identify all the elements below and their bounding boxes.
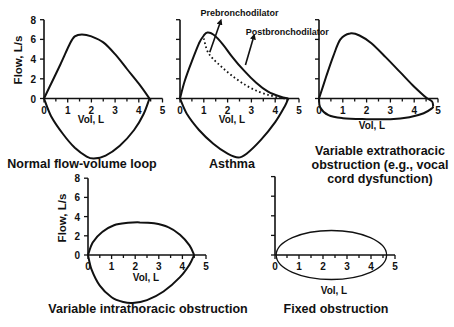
x-axis-label: Vol, L (219, 114, 245, 125)
x-tick-label: 4 (411, 105, 417, 116)
y-tick-label: 6 (30, 34, 36, 45)
y-tick-label: 8 (74, 173, 80, 184)
annotation-label: Prebronchodilator (200, 8, 279, 18)
y-tick-label: 0 (74, 250, 80, 261)
panel-fixed: 012345Vol, L (271, 177, 398, 296)
y-tick-label: 6 (74, 192, 80, 203)
x-tick-label: 5 (435, 105, 441, 116)
x-tick-label: 1 (109, 261, 115, 272)
panel-normal: 01234502468Vol, L (30, 15, 165, 159)
x-tick-label: 2 (364, 105, 370, 116)
x-axis-label: Vol, L (321, 285, 347, 296)
caption-intrathoracic: Variable intrathoracic obstruction (48, 302, 247, 316)
x-tick-label: 1 (201, 105, 207, 116)
series-expiratory (88, 222, 194, 255)
x-axis-label: Vol, L (78, 114, 104, 125)
x-tick-label: 3 (388, 105, 394, 116)
x-tick-label: 5 (296, 105, 302, 116)
y-tick-label: 0 (30, 94, 36, 105)
x-tick-label: 3 (112, 105, 118, 116)
x-tick-label: 1 (340, 105, 346, 116)
x-tick-label: 0 (272, 261, 278, 272)
x-tick-label: 4 (272, 105, 278, 116)
flow-volume-figure: Flow, L/s Flow, L/s 01234502468Vol, L 01… (0, 0, 454, 327)
caption-normal: Normal flow-volume loop (7, 157, 157, 171)
x-tick-label: 5 (392, 261, 398, 272)
caption-extrathoracic-line1: Variable extrathoracic (315, 144, 445, 158)
annotation-arrow (245, 36, 253, 65)
x-tick-label: 4 (136, 105, 142, 116)
caption-asthma: Asthma (209, 157, 256, 171)
x-tick-label: 5 (203, 261, 209, 272)
annotation-label: Postbronchodilator (246, 27, 329, 37)
series-inspiratory (44, 99, 150, 159)
series-prebronchodilator (204, 38, 287, 98)
y-tick-label: 4 (30, 54, 36, 65)
x-tick-label: 5 (160, 105, 166, 116)
x-tick-label: 3 (156, 261, 162, 272)
x-tick-label: 3 (249, 105, 255, 116)
y-tick-label: 2 (30, 74, 36, 85)
x-tick-label: 1 (296, 261, 302, 272)
x-axis-label: Vol, L (359, 120, 385, 131)
caption-extrathoracic-line3: cord dysfunction) (327, 172, 433, 186)
panel-asthma: 012345Vol, LPrebronchodilatorPostbroncho… (176, 8, 329, 158)
y-tick-label: 2 (74, 231, 80, 242)
x-tick-label: 1 (65, 105, 71, 116)
caption-fixed: Fixed obstruction (284, 302, 389, 316)
series-expiratory (319, 33, 433, 106)
panel-extrathoracic: 012345Vol, L (315, 20, 441, 131)
y-tick-label: 4 (74, 212, 80, 223)
y-tick-label: 8 (30, 15, 36, 26)
y-axis-label-bottom: Flow, L/s (56, 194, 68, 243)
annotation-arrow (210, 22, 221, 53)
series-expiratory (44, 35, 150, 99)
x-tick-label: 2 (320, 261, 326, 272)
caption-extrathoracic-line2: obstruction (e.g., vocal (312, 158, 449, 172)
panel-intrathoracic: 01234502468Vol, L (74, 173, 209, 303)
y-axis-label-top: Flow, L/s (12, 36, 24, 85)
series-postbronchodilator (180, 32, 288, 98)
x-tick-label: 2 (132, 261, 138, 272)
x-tick-label: 3 (344, 261, 350, 272)
x-axis-label: Vol, L (133, 272, 159, 283)
